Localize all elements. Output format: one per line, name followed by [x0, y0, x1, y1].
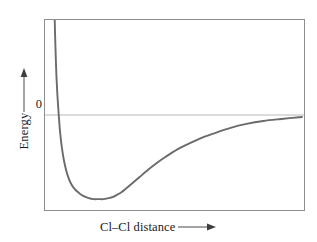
potential-energy-plot — [45, 20, 304, 210]
plot-frame — [44, 19, 305, 211]
x-axis-label-group: Cl–Cl distance — [100, 218, 218, 236]
right-arrow-icon — [178, 221, 218, 233]
zero-tick-label: 0 — [30, 95, 42, 113]
x-axis-label: Cl–Cl distance — [100, 218, 175, 236]
potential-energy-figure: Energy 0 Cl–Cl distance — [0, 0, 317, 242]
y-axis-label-group: Energy — [11, 66, 37, 176]
energy-curve — [55, 20, 302, 199]
